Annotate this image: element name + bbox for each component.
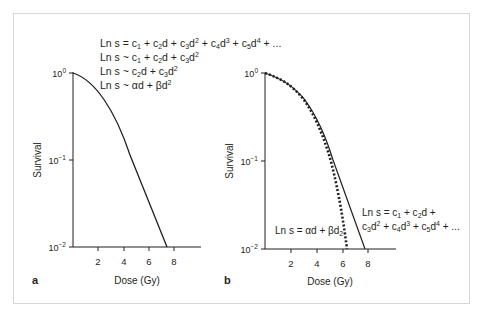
- panel-label: a: [32, 274, 39, 286]
- y-axis-label: Survival: [32, 142, 43, 178]
- x-tick-label: 4: [121, 256, 126, 267]
- lq-curve: [265, 73, 347, 249]
- x-axis-label: Dose (Gy): [114, 275, 160, 286]
- lq-equation: Ln s = αd + βd2: [275, 225, 343, 237]
- y-tick-label: 10−1: [241, 155, 259, 167]
- equation-3: Ln s ~ c2d + c3d2: [100, 65, 178, 78]
- y-tick-label: 10−2: [49, 241, 67, 253]
- figure: Ln s = c1 + c2d + c3d2 + c4d3 + c5d4 + .…: [0, 0, 483, 321]
- x-tick-label: 8: [365, 258, 370, 269]
- panel-b: 100 10−1 10−2 2 4 6 8 Dose (Gy) Survival…: [224, 67, 460, 287]
- polynomial-curve: [265, 73, 365, 249]
- x-tick-label: 6: [146, 256, 151, 267]
- x-tick-label: 8: [171, 256, 176, 267]
- y-tick-label: 100: [244, 67, 258, 79]
- equation-2: Ln s ~ c1 + c2d + c3d2: [100, 51, 199, 64]
- x-tick-label: 2: [288, 258, 293, 269]
- y-tick-label: 10−1: [49, 154, 67, 166]
- panel-label: b: [224, 274, 231, 286]
- equation-1: Ln s = c1 + c2d + c3d2 + c4d3 + c5d4 + .…: [100, 37, 281, 50]
- y-tick-label: 10−2: [241, 243, 259, 255]
- polynomial-equation-line-1: Ln s = c1 + c2d +: [362, 207, 436, 219]
- polynomial-equation-line-2: c3d2 + c4d3 + c5d4 + ...: [362, 220, 460, 233]
- x-axis-label: Dose (Gy): [307, 276, 353, 287]
- y-axis-label: Survival: [224, 143, 235, 179]
- x-tick-label: 6: [340, 258, 345, 269]
- x-tick-label: 2: [95, 256, 100, 267]
- equation-4: Ln s ~ αd + βd2: [100, 79, 172, 91]
- x-tick-label: 4: [314, 258, 319, 269]
- survival-curve: [73, 73, 167, 247]
- y-tick-label: 100: [52, 67, 66, 79]
